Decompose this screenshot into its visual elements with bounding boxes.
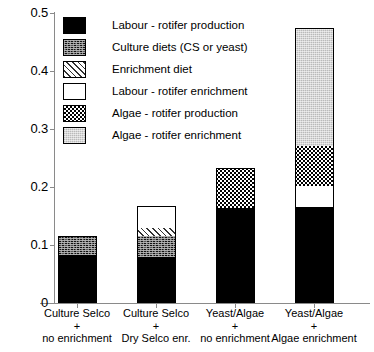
legend-swatch-culture-diets-icon	[63, 39, 86, 56]
bar-segment-enrichment-diet	[137, 228, 176, 236]
bar-segment-labour-rotifer-production	[216, 208, 255, 303]
legend-swatch-algae-rotifer-enrichment-icon	[63, 127, 86, 144]
legend-item: Labour - rotifer enrichment	[63, 81, 278, 103]
bar-chart: 0.5 0.4 0.3 0.2 0.1 0 Labour - rotifer p…	[0, 0, 374, 352]
bar-segment-labour-rotifer-production	[58, 255, 97, 303]
bar-segment-culture-diets-cs-or-yeast	[58, 236, 97, 255]
bar-3	[216, 168, 255, 303]
legend-swatch-algae-rotifer-production-icon	[63, 105, 86, 122]
bar-segment-algae-rotifer-production	[295, 146, 334, 186]
x-category-line: Yeast/Algae	[264, 307, 364, 320]
bar-segment-labour-rotifer-production	[137, 257, 176, 303]
legend-label: Labour - rotifer production	[112, 18, 244, 33]
bar-segment-labour-rotifer-production	[295, 207, 334, 303]
x-category-label-4: Yeast/Algae + Algae enrichment	[264, 307, 364, 345]
x-category-line: Algae enrichment	[264, 332, 364, 345]
bar-segment-algae-rotifer-enrichment	[295, 28, 334, 146]
legend-label: Enrichment diet	[112, 62, 192, 77]
x-category-line: +	[264, 320, 364, 333]
bar-segment-labour-rotifer-enrichment	[295, 186, 334, 207]
legend-item: Algae - rotifer production	[63, 103, 278, 125]
legend-swatch-labour-rotifer-production-icon	[63, 17, 86, 34]
bar-segment-algae-rotifer-production	[216, 168, 255, 208]
bar-2	[137, 206, 176, 303]
legend-label: Labour - rotifer enrichment	[112, 84, 248, 99]
bar-segment-culture-diets-cs-or-yeast	[137, 236, 176, 257]
chart-legend: Labour - rotifer production Culture diet…	[63, 15, 278, 147]
legend-label: Algae - rotifer production	[112, 106, 238, 121]
bar-1	[58, 236, 97, 303]
legend-item: Labour - rotifer production	[63, 15, 278, 37]
legend-item: Algae - rotifer enrichment	[63, 125, 278, 147]
legend-swatch-labour-rotifer-enrichment-icon	[63, 83, 86, 100]
legend-item: Culture diets (CS or yeast)	[63, 37, 278, 59]
legend-swatch-enrichment-diet-icon	[63, 61, 86, 78]
bar-4	[295, 28, 334, 303]
legend-label: Algae - rotifer enrichment	[112, 128, 241, 143]
bar-segment-labour-rotifer-enrichment	[137, 206, 176, 228]
legend-item: Enrichment diet	[63, 59, 278, 81]
legend-label: Culture diets (CS or yeast)	[112, 40, 248, 55]
